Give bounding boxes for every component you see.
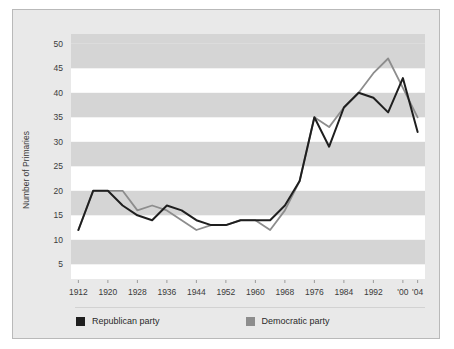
x-tick-1984: 1984	[334, 287, 353, 297]
legend-swatch-democratic-icon	[246, 317, 255, 326]
legend-label-republican: Republican party	[92, 316, 160, 326]
legend-label-democratic: Democratic party	[262, 316, 330, 326]
legend-item-democratic: Democratic party	[246, 316, 330, 326]
x-tick-1968: 1968	[275, 287, 294, 297]
x-tick-1936: 1936	[157, 287, 176, 297]
y-tick-35: 35	[54, 112, 64, 122]
y-tick-10: 10	[54, 235, 64, 245]
chart-legend: Republican party Democratic party	[13, 310, 441, 332]
y-tick-40: 40	[54, 88, 64, 98]
x-tick-1992: 1992	[364, 287, 383, 297]
chart-figure: 5101520253035404550 19121920192819361944…	[12, 9, 440, 339]
x-tick-1976: 1976	[305, 287, 324, 297]
x-tick-1912: 1912	[69, 287, 88, 297]
y-tick-25: 25	[54, 161, 64, 171]
x-tick-1928: 1928	[128, 287, 147, 297]
grid-bands	[71, 34, 425, 279]
x-axis-tick-labels: 1912192019281936194419521960196819761984…	[69, 287, 424, 297]
x-tick-1952: 1952	[216, 287, 235, 297]
x-axis-tick-marks	[78, 280, 417, 283]
legend-swatch-republican-icon	[76, 317, 85, 326]
y-axis-title: Number of Primaries	[21, 131, 31, 209]
x-tick-1960: 1960	[246, 287, 265, 297]
x-tick-00: '00	[397, 287, 408, 297]
legend-divider	[75, 307, 425, 308]
plot-area-wrapper: 5101520253035404550 19121920192819361944…	[13, 10, 441, 340]
y-tick-50: 50	[54, 39, 64, 49]
y-tick-15: 15	[54, 210, 64, 220]
y-tick-20: 20	[54, 186, 64, 196]
legend-item-republican: Republican party	[76, 316, 160, 326]
x-tick-1920: 1920	[98, 287, 117, 297]
x-tick-1944: 1944	[187, 287, 206, 297]
y-tick-5: 5	[58, 259, 63, 269]
y-tick-30: 30	[54, 137, 64, 147]
x-tick-04: '04	[412, 287, 423, 297]
line-chart-svg: 5101520253035404550 19121920192819361944…	[13, 10, 441, 340]
y-axis-tick-labels: 5101520253035404550	[54, 39, 64, 269]
y-tick-45: 45	[54, 63, 64, 73]
